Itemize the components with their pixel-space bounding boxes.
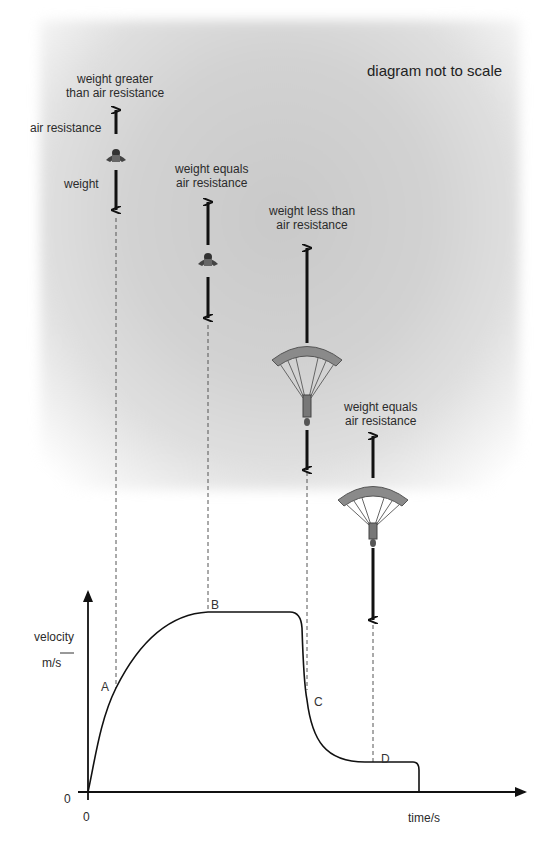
y-axis-label: velocity (34, 630, 74, 644)
stage-C-label: weight less than air resistance (269, 204, 355, 232)
stage-B-label: weight equals air resistance (175, 162, 248, 190)
stage-D-label-line2: air resistance (344, 414, 417, 428)
dashed-guides (116, 218, 373, 762)
x-origin-label: 0 (83, 810, 90, 824)
parachute-icon-C (272, 347, 342, 427)
y-origin-label: 0 (64, 792, 71, 806)
stage-D-label-line1: weight equals (344, 400, 417, 414)
y-axis-unit: m/s (42, 656, 61, 670)
point-C-label: C (314, 695, 323, 709)
skydiver-icon-A (106, 149, 126, 162)
stage-D-label: weight equals air resistance (344, 400, 417, 428)
stage-A-label-line2: than air resistance (66, 86, 164, 100)
stage-A-label: weight greater than air resistance (66, 72, 164, 100)
not-to-scale-note: diagram not to scale (367, 62, 502, 79)
stage-A-label-line1: weight greater (66, 72, 164, 86)
weight-label: weight (64, 177, 99, 191)
stage-B-label-line1: weight equals (175, 162, 248, 176)
point-B-label: B (211, 598, 219, 612)
stage-C-label-line2: air resistance (269, 218, 355, 232)
air-resistance-label: air resistance (30, 121, 101, 135)
parachute-icon-D (338, 487, 408, 548)
x-axis-label: time/s (408, 811, 440, 825)
stage-C-label-line1: weight less than (269, 204, 355, 218)
skydiver-icon-B (198, 253, 218, 266)
velocity-curve (88, 612, 419, 792)
stage-B-label-line2: air resistance (175, 176, 248, 190)
point-D-label: D (381, 752, 390, 766)
point-A-label: A (101, 680, 109, 694)
